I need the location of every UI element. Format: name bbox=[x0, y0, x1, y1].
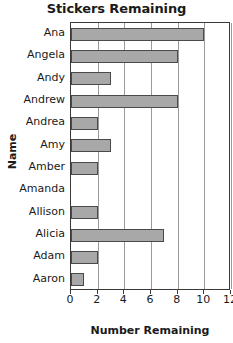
bar-slot bbox=[71, 202, 231, 224]
x-axis-label: Number Remaining bbox=[70, 324, 230, 337]
y-tick-label: Alicia bbox=[0, 223, 65, 245]
x-tick-mark bbox=[123, 290, 124, 294]
x-tick-label: 2 bbox=[85, 293, 109, 306]
bar-slot bbox=[71, 135, 231, 157]
bar bbox=[71, 72, 111, 85]
bar bbox=[71, 28, 204, 41]
bar-slot bbox=[71, 90, 231, 112]
bar-slot bbox=[71, 45, 231, 67]
plot-area bbox=[70, 22, 230, 290]
bar bbox=[71, 229, 164, 242]
bar bbox=[71, 206, 98, 219]
y-tick-label: Andrew bbox=[0, 89, 65, 111]
x-tick-label: 6 bbox=[138, 293, 162, 306]
x-tick-mark bbox=[177, 290, 178, 294]
bar-slot bbox=[71, 112, 231, 134]
bar bbox=[71, 139, 111, 152]
x-tick-mark bbox=[97, 290, 98, 294]
bar bbox=[71, 251, 98, 264]
x-tick-label: 8 bbox=[165, 293, 189, 306]
y-tick-label: Adam bbox=[0, 245, 65, 267]
x-tick-label: 4 bbox=[111, 293, 135, 306]
x-tick-label: 10 bbox=[191, 293, 215, 306]
bar-slot bbox=[71, 269, 231, 291]
x-tick-label: 12 bbox=[218, 293, 233, 306]
y-tick-label: Aaron bbox=[0, 268, 65, 290]
y-tick-label: Ana bbox=[0, 22, 65, 44]
y-tick-label: Amanda bbox=[0, 178, 65, 200]
bar bbox=[71, 50, 178, 63]
y-tick-label: Amber bbox=[0, 156, 65, 178]
x-tick-label: 0 bbox=[58, 293, 82, 306]
y-tick-label: Angela bbox=[0, 44, 65, 66]
y-tick-label: Andrea bbox=[0, 111, 65, 133]
bar bbox=[71, 273, 84, 286]
x-tick-mark bbox=[150, 290, 151, 294]
x-tick-mark bbox=[203, 290, 204, 294]
bar-slot bbox=[71, 179, 231, 201]
bar-slot bbox=[71, 157, 231, 179]
bar-slot bbox=[71, 68, 231, 90]
y-tick-label: Andy bbox=[0, 67, 65, 89]
chart-title: Stickers Remaining bbox=[0, 1, 233, 16]
bar-slot bbox=[71, 23, 231, 45]
bar bbox=[71, 117, 98, 130]
bar-chart: Stickers Remaining Name AnaAngelaAndyAnd… bbox=[0, 0, 233, 343]
y-tick-label: Allison bbox=[0, 201, 65, 223]
bar bbox=[71, 162, 98, 175]
x-tick-mark bbox=[230, 290, 231, 294]
y-tick-label: Amy bbox=[0, 134, 65, 156]
bar-slot bbox=[71, 224, 231, 246]
bar-slot bbox=[71, 246, 231, 268]
gridline bbox=[231, 23, 232, 289]
x-tick-mark bbox=[70, 290, 71, 294]
bar bbox=[71, 95, 178, 108]
